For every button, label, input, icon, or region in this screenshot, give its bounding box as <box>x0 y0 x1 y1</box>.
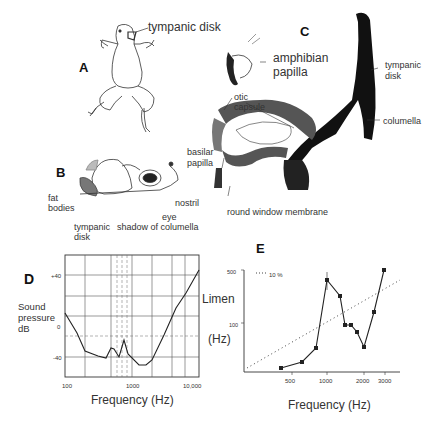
panel-letter-a: A <box>79 63 88 73</box>
leader-line <box>136 28 148 32</box>
label-tympanic-c: tympanic <box>385 60 421 70</box>
label-round-window-membrane: round window membrane <box>227 207 328 217</box>
label-nostril: nostril <box>175 198 199 208</box>
label-columella: columella <box>383 116 421 126</box>
chart-d <box>65 255 199 377</box>
chart-e-xtick-1000: 1000 <box>319 376 332 386</box>
panel-letter-d: D <box>24 274 34 284</box>
label-basilar-papilla: papilla <box>187 158 213 168</box>
chart-d-ytick-neg40: -40 <box>53 353 62 363</box>
label-disk-c: disk <box>385 71 401 81</box>
chart-d-ylabel-2: pressure <box>18 313 55 323</box>
chart-d-ytick-0: 0 <box>57 322 60 332</box>
label-tympanic-b: tympanic <box>74 222 110 232</box>
label-shadow-of-columella: shadow of columella <box>117 222 199 232</box>
label-eye: eye <box>162 212 177 222</box>
label-fat: fat <box>48 193 58 203</box>
chart-d-ylabel-1: Sound <box>18 302 45 312</box>
label-amphibian: amphibian <box>273 53 328 63</box>
label-tympanic-disk-a: tympanic disk <box>148 22 221 32</box>
frog-illustration <box>88 24 154 132</box>
chart-d-ytick-40: +40 <box>51 271 61 281</box>
chart-d-xtick-10000: 10,000 <box>183 381 201 391</box>
chart-d-xtick-1000: 1000 <box>126 381 139 391</box>
panel-letter-b: B <box>56 168 65 178</box>
chart-e-line <box>281 270 384 368</box>
chart-e-ytick-100: 100 <box>229 320 238 330</box>
chart-d-ylabel-3: dB <box>18 324 30 334</box>
label-papilla: papilla <box>273 67 308 77</box>
chart-e <box>241 268 400 375</box>
chart-e-ytick-500: 500 <box>227 267 236 277</box>
panel-letter-e: E <box>256 244 265 254</box>
chart-e-xtick-500: 500 <box>285 376 295 386</box>
label-disk-b: disk <box>74 232 90 242</box>
chart-d-xtick-100: 100 <box>62 381 72 391</box>
label-basilar: basilar <box>187 147 214 157</box>
chart-e-xlabel: Frequency (Hz) <box>288 398 371 412</box>
chart-e-ylabel-2: (Hz) <box>208 332 231 346</box>
chart-d-xlabel: Frequency (Hz) <box>91 393 174 407</box>
panel-letter-c: C <box>300 27 309 37</box>
chart-e-markers <box>279 268 386 370</box>
chart-e-legend-label: 10 % <box>269 270 283 280</box>
head-illustration <box>80 159 178 196</box>
chart-e-ylabel-1: Limen <box>202 292 235 306</box>
chart-e-xtick-2000: 2000 <box>356 376 369 386</box>
chart-e-10pct-line <box>247 280 400 368</box>
label-otic: otic <box>234 92 248 102</box>
chart-e-xtick-3000: 3000 <box>378 376 391 386</box>
label-bodies: bodies <box>48 203 75 213</box>
label-capsule: capsule <box>234 102 265 112</box>
